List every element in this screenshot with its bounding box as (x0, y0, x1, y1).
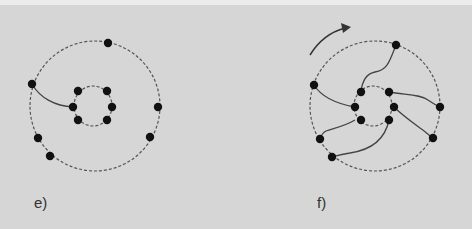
panel-f-label: f) (317, 194, 326, 211)
diagram-canvas (0, 0, 472, 229)
connection-lines (314, 45, 440, 157)
panel-e-label: e) (34, 194, 47, 211)
outer-ring (310, 41, 440, 171)
rotation-arrow (310, 28, 345, 55)
arrowhead-icon (341, 23, 351, 33)
connection-line (32, 84, 73, 107)
panel-f (310, 23, 444, 171)
panel-e (28, 39, 162, 171)
outer-ring (30, 41, 160, 171)
